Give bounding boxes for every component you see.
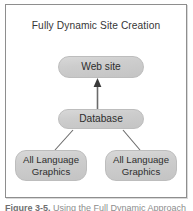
figure-caption: Figure 3-5. Using the Full Dynamic Appro… <box>5 203 188 211</box>
diagram-node-graphics-right-label: All Language Graphics <box>110 154 172 177</box>
figure-caption-text: Using the Full Dynamic Approach <box>53 203 186 211</box>
figure-caption-label: Figure 3-5. <box>5 203 51 211</box>
diagram-node-database[interactable]: Database <box>58 109 144 129</box>
figure-root: Fully Dynamic Site Creation Web site Dat… <box>0 0 193 211</box>
diagram-node-graphics-left-label: All Language Graphics <box>20 154 82 177</box>
diagram-node-website[interactable]: Web site <box>58 56 144 78</box>
diagram-node-graphics-right[interactable]: All Language Graphics <box>105 150 177 181</box>
diagram-node-database-label: Database <box>76 113 126 125</box>
diagram-node-graphics-left[interactable]: All Language Graphics <box>15 150 87 181</box>
diagram-node-website-label: Web site <box>78 61 123 73</box>
diagram-title: Fully Dynamic Site Creation <box>6 20 186 32</box>
